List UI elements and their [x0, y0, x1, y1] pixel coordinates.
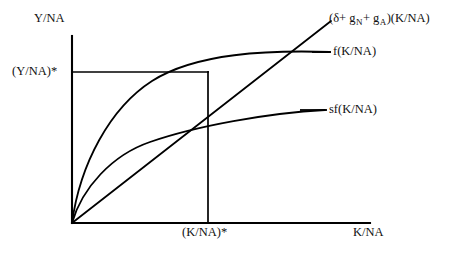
depreciation-argument: (K/NA) [391, 11, 430, 25]
depreciation-plus-2: + [363, 11, 370, 25]
y-axis-title: Y/NA [34, 12, 65, 25]
savings-function-label: sf(K/NA) [329, 103, 377, 116]
axes-group [72, 36, 370, 223]
production-function-label: f(K/NA) [333, 45, 376, 58]
plot-area [0, 0, 470, 258]
depreciation-subscript-n: N [355, 17, 363, 27]
reference-lines-group [72, 71, 209, 223]
y-star-tick-label: (Y/NA)* [12, 65, 57, 78]
depreciation-subscript-a: A [379, 17, 387, 27]
label-leader-lines [300, 52, 331, 110]
savings-function-curve [72, 110, 325, 223]
x-axis-title: K/NA [353, 226, 384, 239]
depreciation-line-label: (δ+gN+gA)(K/NA) [329, 12, 430, 27]
depreciation-plus-1: + [339, 11, 346, 25]
production-function-curve [72, 52, 330, 223]
figure-canvas: Y/NA K/NA (Y/NA)* (K/NA)* f(K/NA) sf(K/N… [0, 0, 470, 258]
x-star-tick-label: (K/NA)* [182, 226, 227, 239]
